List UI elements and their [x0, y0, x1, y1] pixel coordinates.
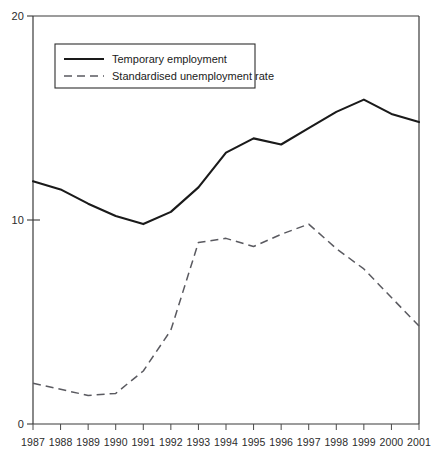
- legend-label-temporary-employment: Temporary employment: [112, 53, 227, 65]
- x-tick-label-1989: 1989: [76, 436, 100, 448]
- x-tick-label-1987: 1987: [21, 436, 45, 448]
- series-line-temporary-employment: [33, 100, 419, 224]
- x-tick-label-1994: 1994: [214, 436, 238, 448]
- x-tick-label-1999: 1999: [352, 436, 376, 448]
- x-tick-label-1988: 1988: [49, 436, 73, 448]
- x-tick-label-1992: 1992: [159, 436, 183, 448]
- y-tick-label-20: 20: [12, 10, 24, 22]
- x-tick-label-1996: 1996: [269, 436, 293, 448]
- chart-figure: 20 10 0 19871988198919901991199219931994…: [0, 0, 431, 458]
- line-chart: 20 10 0 19871988198919901991199219931994…: [0, 0, 431, 458]
- x-axis-tick-labels: 1987198819891990199119921993199419951996…: [21, 436, 431, 448]
- x-tick-label-1991: 1991: [131, 436, 155, 448]
- x-tick-label-1995: 1995: [242, 436, 266, 448]
- series-line-standardised-unemployment-rate: [33, 224, 419, 395]
- x-tick-marks: [33, 424, 419, 430]
- y-tick-label-0: 0: [18, 418, 24, 430]
- x-tick-label-1997: 1997: [297, 436, 321, 448]
- chart-legend: Temporary employment Standardised unempl…: [55, 44, 274, 88]
- legend-label-standardised-unemployment-rate: Standardised unemployment rate: [112, 70, 274, 82]
- y-tick-label-10: 10: [12, 214, 24, 226]
- x-tick-label-2001: 2001: [407, 436, 431, 448]
- x-tick-label-1990: 1990: [104, 436, 128, 448]
- x-tick-label-1998: 1998: [324, 436, 348, 448]
- x-tick-label-2000: 2000: [380, 436, 404, 448]
- x-tick-label-1993: 1993: [187, 436, 211, 448]
